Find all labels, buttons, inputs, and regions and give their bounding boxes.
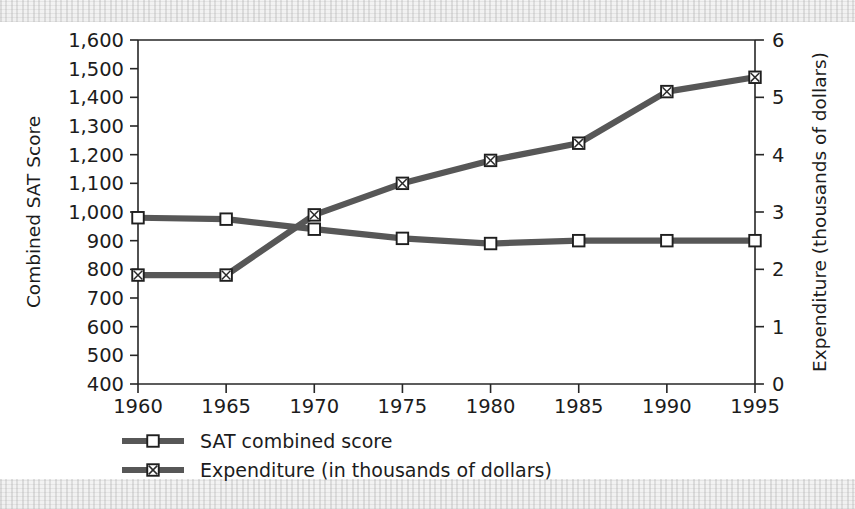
y2-axis-tick-label: 3	[772, 201, 784, 224]
y-axis-title: Combined SAT Score	[23, 116, 44, 308]
y2-axis-tick-label: 5	[772, 86, 784, 109]
open-square-marker	[749, 235, 761, 247]
series-expenditure	[132, 72, 761, 281]
y2-axis-title: Expenditure (thousands of dollars)	[809, 52, 830, 372]
y-axis-tick-label: 1,500	[68, 58, 124, 81]
x-axis-tick-label: 1995	[730, 395, 780, 418]
open-square-marker	[147, 435, 159, 447]
x-axis-tick-label: 1965	[201, 395, 251, 418]
x-axis-tick-label: 1975	[378, 395, 428, 418]
legend-label: SAT combined score	[200, 430, 392, 452]
legend-layer: SAT combined scoreExpenditure (in thousa…	[122, 430, 552, 481]
y-axis-tick-label: 1,400	[68, 86, 124, 109]
y-axis-tick-label: 500	[87, 344, 124, 367]
y-axis-tick-label: 1,000	[68, 201, 124, 224]
x-axis-tick-label: 1985	[554, 395, 604, 418]
y2-axis-tick-label: 1	[772, 316, 784, 339]
open-square-marker	[573, 235, 585, 247]
y2-axis-tick-label: 0	[772, 373, 784, 396]
y-axis-tick-label: 700	[87, 287, 124, 310]
y2-axis-tick-label: 6	[772, 29, 784, 52]
open-square-marker	[397, 233, 409, 245]
y-axis-tick-label: 900	[87, 230, 124, 253]
x-axis-tick-label: 1980	[466, 395, 516, 418]
y-axis-tick-label: 600	[87, 316, 124, 339]
open-square-marker	[309, 223, 321, 235]
open-square-marker	[220, 213, 232, 225]
y2-axis-tick-label: 2	[772, 258, 784, 281]
y-axis-tick-label: 1,300	[68, 115, 124, 138]
y-axis-tick-label: 800	[87, 258, 124, 281]
x-axis-tick-label: 1990	[642, 395, 692, 418]
y-axis-tick-label: 1,100	[68, 172, 124, 195]
dual-axis-line-chart: 1,6001,5001,4001,3001,2001,1001,00090080…	[0, 0, 855, 509]
y-axis-tick-label: 400	[87, 373, 124, 396]
series-layer	[132, 72, 761, 281]
y-axis-tick-label: 1,200	[68, 144, 124, 167]
legend-label: Expenditure (in thousands of dollars)	[200, 459, 552, 481]
y2-axis-tick-label: 4	[772, 144, 784, 167]
x-axis-tick-label: 1970	[289, 395, 339, 418]
chart-figure: 1,6001,5001,4001,3001,2001,1001,00090080…	[0, 0, 855, 509]
legend-item[interactable]: SAT combined score	[122, 430, 392, 452]
legend-item[interactable]: Expenditure (in thousands of dollars)	[122, 459, 552, 481]
open-square-marker	[132, 212, 144, 224]
open-square-marker	[485, 238, 497, 250]
y-axis-tick-label: 1,600	[68, 29, 124, 52]
series-sat	[132, 212, 761, 249]
open-square-marker	[661, 235, 673, 247]
x-axis-tick-label: 1960	[113, 395, 163, 418]
